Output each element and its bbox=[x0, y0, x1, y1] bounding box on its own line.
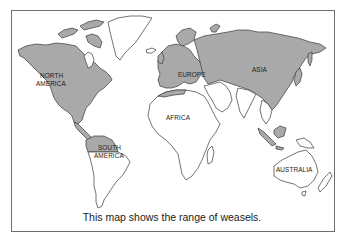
sumatra bbox=[258, 128, 276, 146]
map-caption: This map shows the range of weasels. bbox=[0, 211, 344, 223]
label-africa: AFRICA bbox=[166, 114, 191, 121]
new-zealand bbox=[318, 172, 332, 192]
sakhalin bbox=[308, 52, 312, 66]
new-guinea bbox=[296, 138, 314, 148]
java bbox=[276, 146, 284, 150]
africa bbox=[148, 90, 220, 180]
label-australia: AUSTRALIA bbox=[276, 166, 313, 173]
iceland bbox=[146, 48, 156, 53]
india bbox=[236, 88, 256, 118]
arctic-islands bbox=[80, 20, 104, 30]
label-europe: EUROPE bbox=[178, 71, 206, 78]
label-north-america: NORTHAMERICA bbox=[36, 72, 66, 87]
label-asia: ASIA bbox=[252, 66, 268, 73]
south-america-south bbox=[88, 152, 130, 208]
novaya-zemlya bbox=[210, 24, 220, 32]
arctic-islands bbox=[86, 34, 102, 48]
label-south-america: SOUTHAMERICA bbox=[94, 144, 124, 159]
greenland bbox=[108, 16, 152, 60]
scandinavia bbox=[176, 28, 196, 46]
world-map: NORTHAMERICA SOUTHAMERICA EUROPE ASIA AF… bbox=[0, 0, 344, 245]
arctic-islands bbox=[58, 28, 78, 38]
borneo bbox=[274, 126, 286, 138]
madagascar bbox=[207, 146, 214, 164]
tasmania bbox=[302, 191, 306, 196]
